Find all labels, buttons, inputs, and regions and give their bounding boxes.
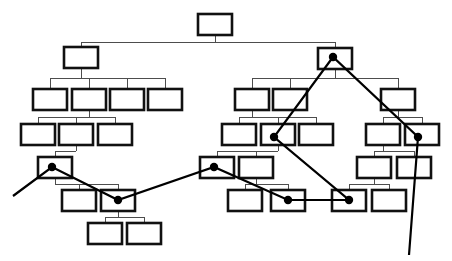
tree-node-box[interactable] (98, 124, 132, 145)
tree-node-box[interactable] (239, 157, 273, 178)
tree-edge-group (50, 68, 165, 89)
tree-node-box[interactable] (357, 157, 391, 178)
path-node-marker-dot[interactable] (210, 163, 218, 171)
tree-node-box[interactable] (33, 89, 67, 110)
tree-node-box[interactable] (397, 157, 431, 178)
tree-node-box[interactable] (72, 89, 106, 110)
traversal-path-layer (13, 53, 422, 255)
tree-node-box[interactable] (228, 190, 262, 211)
tree-node-box[interactable] (198, 14, 232, 35)
path-node-marker-dot[interactable] (270, 133, 278, 141)
tree-node-box[interactable] (405, 124, 439, 145)
tree-node-box[interactable] (261, 124, 295, 145)
tree-edge-group (55, 145, 76, 157)
tree-edge-group (105, 211, 144, 223)
path-node-marker-dot[interactable] (414, 133, 422, 141)
tree-node-box[interactable] (59, 124, 93, 145)
path-node-marker-dot[interactable] (284, 196, 292, 204)
tree-node-box[interactable] (222, 124, 256, 145)
tree-node-box[interactable] (88, 223, 122, 244)
path-node-marker-dot[interactable] (345, 196, 353, 204)
tree-edge-group (81, 35, 335, 48)
tree-node-box[interactable] (110, 89, 144, 110)
path-node-marker-dot[interactable] (48, 163, 56, 171)
diagram-canvas (0, 0, 452, 261)
tree-edge-group (374, 145, 414, 157)
tree-edge-group (38, 110, 115, 124)
tree-edge-group (252, 69, 398, 89)
tree-node-box[interactable] (299, 124, 333, 145)
tree-nodes-layer (21, 14, 439, 244)
tree-node-box[interactable] (372, 190, 406, 211)
tree-node-box[interactable] (21, 124, 55, 145)
path-node-marker-dot[interactable] (329, 53, 337, 61)
tree-node-box[interactable] (64, 47, 98, 68)
tree-edge-group (239, 110, 316, 124)
path-node-marker-dot[interactable] (114, 196, 122, 204)
tree-edge-group (217, 145, 278, 157)
tree-edge-group (349, 178, 389, 190)
tree-node-box[interactable] (366, 124, 400, 145)
tree-node-box[interactable] (127, 223, 161, 244)
tree-node-box[interactable] (62, 190, 96, 211)
tree-node-box[interactable] (235, 89, 269, 110)
tree-diagram (0, 0, 452, 261)
tree-node-box[interactable] (148, 89, 182, 110)
